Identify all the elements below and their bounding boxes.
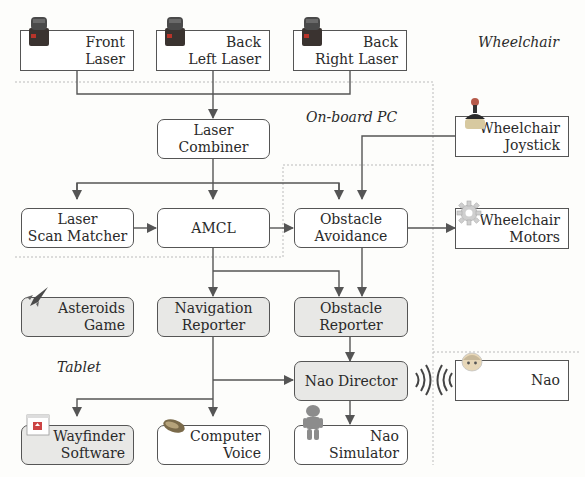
node-obstacle-avoidance: ObstacleAvoidance bbox=[294, 208, 408, 248]
node-nao-director: Nao Director bbox=[294, 361, 408, 401]
rocket-icon bbox=[26, 286, 50, 308]
software-window-icon bbox=[26, 414, 50, 436]
joystick-icon bbox=[462, 97, 488, 131]
microphone-icon bbox=[161, 418, 189, 436]
wireless-signal-icon bbox=[416, 365, 452, 395]
region-label-wheelchair: Wheelchair bbox=[478, 34, 559, 50]
node-navigation-reporter: NavigationReporter bbox=[157, 297, 270, 337]
node-amcl: AMCL bbox=[157, 208, 270, 248]
laser-sensor-icon bbox=[300, 14, 324, 50]
laser-sensor-icon bbox=[163, 14, 187, 50]
nao-robot-head-icon bbox=[461, 351, 483, 373]
node-laser-combiner: LaserCombiner bbox=[157, 119, 270, 159]
node-laser-scan-matcher: LaserScan Matcher bbox=[21, 208, 134, 248]
region-label-onboard-pc: On-board PC bbox=[306, 109, 397, 125]
gear-icon bbox=[456, 200, 482, 226]
laser-sensor-icon bbox=[27, 14, 51, 50]
region-label-tablet: Tablet bbox=[57, 359, 101, 375]
nao-robot-icon bbox=[302, 405, 324, 441]
node-obstacle-reporter: ObstacleReporter bbox=[294, 297, 408, 337]
